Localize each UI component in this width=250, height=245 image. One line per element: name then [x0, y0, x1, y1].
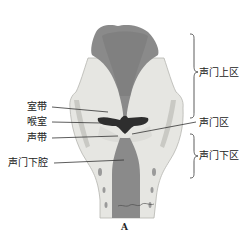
brace-supraglottic	[190, 34, 198, 118]
label-subglottic-cavity: 声门下腔	[8, 157, 48, 169]
larynx-diagram: 室带 喉室 声带 声门下腔 声门上区 声门区 声门下区 A	[0, 0, 250, 245]
label-subglottic-region: 声门下区	[199, 150, 239, 162]
label-vestibular-fold: 室带	[27, 101, 47, 113]
brace-subglottic	[190, 134, 198, 178]
label-vocal-fold: 声带	[27, 132, 47, 144]
label-laryngeal-ventricle: 喉室	[27, 116, 47, 128]
label-glottic-region: 声门区	[199, 117, 229, 129]
label-supraglottic-region: 声门上区	[199, 67, 239, 79]
figure-caption: A	[121, 222, 128, 232]
